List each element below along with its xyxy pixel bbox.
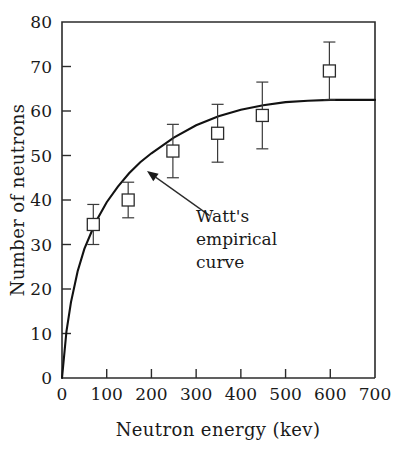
chart-figure: 01020304050607080 0100200300400500600700… — [0, 0, 405, 453]
y-axis-tick-labels: 01020304050607080 — [30, 12, 52, 388]
x-axis-title: Neutron energy (kev) — [116, 419, 321, 440]
data-point-marker — [167, 145, 179, 157]
neutron-yield-chart: 01020304050607080 0100200300400500600700… — [0, 0, 405, 453]
annotation-line-1: Watt's — [196, 206, 249, 226]
y-tick-label: 80 — [30, 12, 52, 32]
data-point-marker — [212, 127, 224, 139]
x-axis-tick-labels: 0100200300400500600700 — [57, 384, 392, 404]
y-tick-label: 40 — [30, 190, 52, 210]
x-tick-label: 700 — [359, 384, 391, 404]
y-tick-label: 60 — [30, 101, 52, 121]
data-point-marker — [122, 194, 134, 206]
data-point-marker — [323, 65, 335, 77]
annotation-line-2: empirical — [196, 229, 277, 249]
x-tick-label: 0 — [57, 384, 68, 404]
y-tick-label: 0 — [41, 368, 52, 388]
x-tick-label: 400 — [225, 384, 257, 404]
y-tick-label: 10 — [30, 324, 52, 344]
y-tick-label: 20 — [30, 279, 52, 299]
data-point-marker — [256, 109, 268, 121]
x-tick-label: 200 — [135, 384, 167, 404]
y-tick-label: 70 — [30, 57, 52, 77]
x-tick-label: 300 — [180, 384, 212, 404]
y-tick-label: 30 — [30, 235, 52, 255]
data-point-marker — [87, 218, 99, 230]
annotation-line-3: curve — [196, 252, 244, 272]
y-axis-title: Number of neutrons — [7, 104, 28, 297]
x-tick-label: 100 — [90, 384, 122, 404]
x-tick-label: 600 — [314, 384, 346, 404]
y-tick-label: 50 — [30, 146, 52, 166]
x-tick-label: 500 — [269, 384, 301, 404]
